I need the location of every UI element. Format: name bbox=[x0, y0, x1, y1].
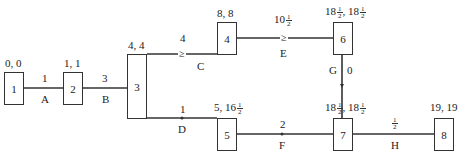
node-2-label: 2 bbox=[70, 83, 76, 95]
node-3-times: 4, 4 bbox=[128, 40, 145, 51]
fraction-half: 12 bbox=[360, 6, 366, 19]
node-5-times: 5, 1612 bbox=[214, 102, 243, 115]
edge-e-duration: 1012 bbox=[274, 14, 292, 27]
edge-b-duration: 3 bbox=[102, 73, 108, 84]
fraction-half: 12 bbox=[392, 117, 398, 130]
node-8-label: 8 bbox=[441, 129, 447, 141]
node-4-times: 8, 8 bbox=[217, 8, 234, 19]
node-6-lf: , 18 bbox=[343, 5, 360, 17]
node-5-label: 5 bbox=[224, 129, 230, 141]
frac-den: 2 bbox=[361, 109, 365, 115]
node-6-times: 1812, 1812 bbox=[325, 6, 366, 19]
node-4: 4 bbox=[217, 22, 237, 55]
edge-g-duration: 0 bbox=[347, 65, 353, 76]
edge-d-duration: 1 bbox=[180, 104, 186, 115]
frac-den: 2 bbox=[287, 21, 291, 27]
node-2-times: 1, 1 bbox=[64, 58, 81, 69]
node-5-times-text: 5, 16 bbox=[214, 101, 236, 113]
fraction-half: 12 bbox=[360, 102, 366, 115]
node-4-label: 4 bbox=[224, 33, 230, 45]
edge-b-activity: B bbox=[102, 94, 109, 105]
node-7-label: 7 bbox=[340, 129, 346, 141]
edge-c-marker-icon: ≥ bbox=[178, 48, 186, 59]
edge-e-activity: E bbox=[280, 48, 287, 59]
edge-a-activity: A bbox=[41, 94, 49, 105]
frac-den: 2 bbox=[393, 124, 397, 130]
node-8: 8 bbox=[434, 118, 454, 151]
node-6-label: 6 bbox=[340, 33, 346, 45]
node-7-times: 1812, 1812 bbox=[325, 102, 366, 115]
edge-d-marker bbox=[181, 117, 184, 120]
edge-d-activity: D bbox=[178, 124, 186, 135]
edge-c-activity: C bbox=[197, 61, 204, 72]
frac-den: 2 bbox=[361, 13, 365, 19]
node-7: 7 bbox=[333, 118, 353, 151]
node-3-label: 3 bbox=[134, 81, 140, 93]
fraction-half: 12 bbox=[286, 14, 292, 27]
frac-den: 2 bbox=[338, 109, 342, 115]
edge-f-marker bbox=[281, 133, 284, 136]
edge-f-activity: F bbox=[279, 140, 285, 151]
node-7-lf: , 18 bbox=[343, 101, 360, 113]
edge-e-marker-icon: ≥ bbox=[280, 32, 288, 43]
node-5: 5 bbox=[217, 118, 237, 151]
frac-den: 2 bbox=[238, 109, 242, 115]
edge-g-arrow-icon bbox=[340, 84, 344, 88]
node-6: 6 bbox=[333, 22, 353, 55]
node-6-es: 18 bbox=[325, 5, 336, 17]
fraction-half: 12 bbox=[237, 102, 243, 115]
edge-a-duration: 1 bbox=[42, 73, 48, 84]
node-8-times: 19, 19 bbox=[430, 102, 458, 113]
edge-h-activity: H bbox=[391, 140, 399, 151]
edge-e-duration-int: 10 bbox=[274, 13, 285, 25]
node-7-es: 18 bbox=[325, 101, 336, 113]
edge-h-duration: 12 bbox=[391, 117, 398, 130]
frac-den: 2 bbox=[338, 13, 342, 19]
node-1-times: 0, 0 bbox=[5, 58, 22, 69]
node-1-label: 1 bbox=[11, 83, 17, 95]
edge-g-activity: G bbox=[329, 65, 337, 76]
node-3: 3 bbox=[127, 54, 147, 119]
node-1: 1 bbox=[4, 72, 24, 105]
edge-f-duration: 2 bbox=[280, 119, 286, 130]
edge-c-duration: 4 bbox=[180, 33, 186, 44]
node-2: 2 bbox=[63, 72, 83, 105]
